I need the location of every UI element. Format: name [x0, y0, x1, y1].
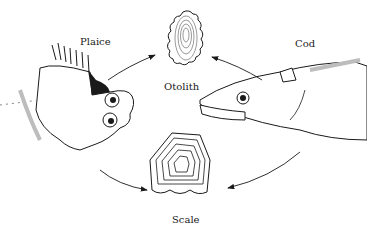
arrow-cod-to-otolith: [212, 57, 262, 80]
label-scale: Scale: [172, 214, 200, 225]
label-plaice: Plaice: [80, 36, 111, 47]
arrow-cod-to-scale: [228, 152, 300, 188]
arrow-plaice-to-otolith: [108, 55, 155, 80]
fish-aging-diagram: Plaice Otolith Cod Scale: [0, 0, 367, 234]
plaice-illustration: [0, 43, 134, 150]
label-otolith: Otolith: [164, 81, 199, 92]
scale-illustration: [150, 133, 210, 194]
diagram-drawing: [0, 0, 367, 234]
label-cod: Cod: [295, 38, 315, 49]
otolith-illustration: [168, 11, 203, 65]
cod-illustration: [200, 60, 367, 140]
arrow-plaice-to-scale: [100, 170, 147, 190]
